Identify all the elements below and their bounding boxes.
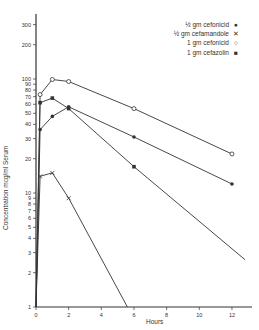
series-line	[36, 173, 127, 307]
open-circle-marker	[38, 93, 42, 97]
y-tick-label: 2	[28, 270, 31, 276]
filled-square-marker	[132, 165, 136, 169]
x-tick-label: 6	[132, 312, 135, 318]
x-tick-label: 10	[196, 312, 202, 318]
y-tick-label: 4	[28, 235, 31, 241]
y-tick-label: 10	[25, 190, 31, 196]
y-tick-label: 6	[28, 215, 31, 221]
y-tick-label: 300	[22, 22, 31, 28]
y-tick-label: 100	[22, 76, 31, 82]
filled-circle-marker	[51, 115, 55, 119]
open-circle-marker	[50, 77, 54, 81]
filled-circle-marker	[38, 128, 42, 132]
x-marker-icon: ✕	[232, 29, 240, 38]
filled-circle-icon: ●	[232, 20, 240, 29]
y-tick-label: 7	[28, 208, 31, 214]
filled-circle-marker	[230, 182, 234, 186]
y-tick-label: 8	[28, 201, 31, 207]
legend-item: 1 gm cefazolin■	[120, 48, 240, 57]
legend: ½ gm cefonicid● ½ gm cefamandole✕ 1 gm c…	[120, 20, 240, 57]
filled-square-marker	[38, 101, 42, 105]
y-axis-label: Concentration mcg/ml Serum	[2, 146, 9, 230]
y-tick-label: 20	[25, 156, 31, 162]
open-circle-marker	[132, 107, 136, 111]
open-circle-marker	[67, 80, 71, 84]
series-line	[36, 98, 245, 307]
open-circle-icon: ○	[232, 38, 240, 47]
y-tick-label: 3	[28, 250, 31, 256]
y-tick-label: 50	[25, 110, 31, 116]
y-tick-label: 5	[28, 224, 31, 230]
y-tick-label: 9	[28, 195, 31, 201]
legend-item: 1 gm cefonicid○	[120, 38, 240, 47]
y-tick-label: 200	[22, 42, 31, 48]
x-axis-label: Hours	[146, 318, 163, 325]
legend-label: ½ gm cefamandole	[174, 29, 229, 38]
legend-label: ½ gm cefonicid	[185, 20, 229, 29]
y-tick-label: 30	[25, 136, 31, 142]
y-tick-label: 1	[28, 304, 31, 310]
legend-item: ½ gm cefonicid●	[120, 20, 240, 29]
filled-square-icon: ■	[232, 48, 240, 57]
legend-item: ½ gm cefamandole✕	[120, 29, 240, 38]
open-circle-marker	[230, 152, 234, 156]
legend-label: 1 gm cefonicid	[187, 38, 229, 47]
y-tick-label: 80	[25, 87, 31, 93]
y-tick-label: 90	[25, 81, 31, 87]
y-tick-label: 60	[25, 101, 31, 107]
filled-square-marker	[67, 107, 71, 111]
y-tick-label: 70	[25, 94, 31, 100]
x-tick-label: 0	[34, 312, 37, 318]
x-tick-label: 8	[165, 312, 168, 318]
filled-circle-marker	[132, 135, 136, 139]
filled-square-marker	[51, 96, 55, 100]
y-tick-label: 40	[25, 121, 31, 127]
legend-label: 1 gm cefazolin	[187, 48, 229, 57]
x-tick-label: 4	[100, 312, 103, 318]
x-tick-label: 12	[229, 312, 235, 318]
x-tick-label: 2	[67, 312, 70, 318]
